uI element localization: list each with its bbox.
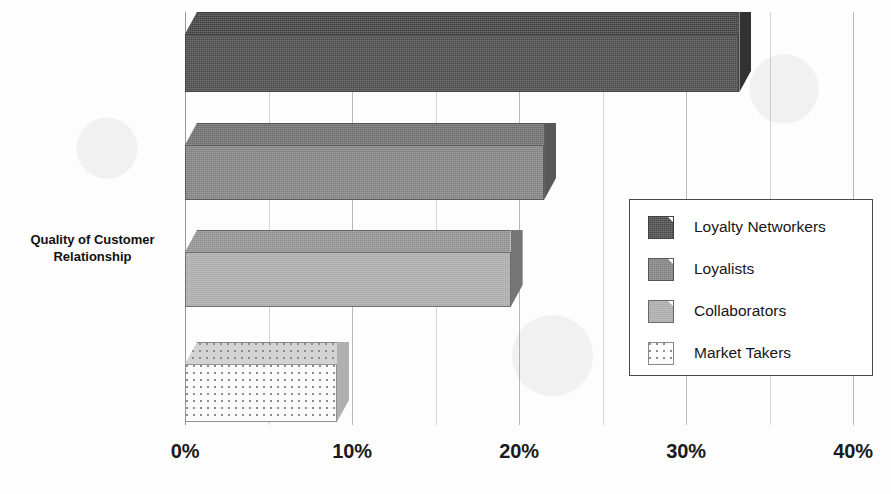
bar-front-face — [185, 34, 739, 92]
legend-item-collaborators[interactable]: Collaborators — [648, 296, 786, 326]
bar-front-face — [185, 364, 337, 422]
bar-top-face — [185, 123, 544, 145]
bar-texture — [186, 35, 738, 91]
bar-loyalty-networkers — [185, 34, 751, 92]
bar-top-face — [185, 230, 511, 252]
bar-front-face — [185, 252, 511, 307]
bar-side-face — [337, 342, 349, 422]
bar-texture — [185, 343, 337, 364]
chart-legend: Loyalty NetworkersLoyalistsCollaborators… — [629, 199, 873, 376]
legend-item-loyalty-networkers[interactable]: Loyalty Networkers — [648, 212, 826, 242]
y-axis-title-line-2: Relationship — [10, 249, 175, 266]
x-tick-label-20: 20% — [499, 440, 538, 463]
bar-loyalists — [185, 145, 556, 200]
bar-market-takers — [185, 364, 349, 422]
legend-item-loyalists[interactable]: Loyalists — [648, 254, 754, 284]
bar-side-face — [511, 230, 523, 307]
bar-side-face — [544, 123, 556, 200]
legend-item-label: Loyalists — [694, 260, 754, 278]
x-tick-label-10: 10% — [332, 440, 371, 463]
legend-item-market-takers[interactable]: Market Takers — [648, 338, 791, 368]
y-axis-title: Quality of Customer Relationship — [10, 232, 175, 265]
bar-texture — [185, 231, 511, 252]
legend-swatch-corner — [667, 300, 674, 307]
legend-item-label: Loyalty Networkers — [694, 218, 826, 236]
bar-side-face — [739, 12, 751, 92]
legend-swatch-corner — [667, 216, 674, 223]
bar-collaborators — [185, 252, 523, 307]
x-tick-label-40: 40% — [833, 440, 872, 463]
legend-swatch-corner — [667, 342, 674, 349]
bar-texture — [186, 146, 543, 199]
bar-texture — [186, 365, 336, 421]
bar-texture — [186, 253, 510, 306]
y-axis-title-line-1: Quality of Customer — [10, 232, 175, 249]
chart-canvas: Quality of Customer Relationship 0%10%20… — [0, 0, 891, 494]
legend-swatch-icon — [648, 216, 674, 239]
x-tick-label-30: 30% — [666, 440, 705, 463]
bar-texture — [185, 124, 544, 145]
bar-top-face — [185, 12, 739, 34]
legend-swatch-corner — [667, 258, 674, 265]
legend-swatch-icon — [648, 300, 674, 323]
legend-swatch-icon — [648, 258, 674, 281]
legend-item-label: Market Takers — [694, 344, 791, 362]
bar-texture — [185, 13, 739, 34]
bar-top-face — [185, 342, 337, 364]
legend-swatch-icon — [648, 342, 674, 365]
x-tick-label-0: 0% — [171, 440, 200, 463]
bar-front-face — [185, 145, 544, 200]
legend-item-label: Collaborators — [694, 302, 786, 320]
